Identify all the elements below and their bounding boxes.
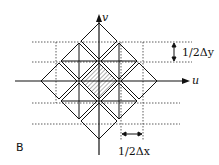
dx-label: 1/2Δx (118, 146, 150, 157)
lattice-diagram (0, 0, 219, 165)
panel-label: B (16, 142, 24, 153)
dx-dimension-arrow (122, 132, 142, 136)
diagram: v u 1/2Δy 1/2Δx B (0, 0, 219, 165)
dy-label: 1/2Δy (182, 47, 214, 58)
dy-dimension-arrow (172, 43, 176, 61)
u-axis-arrow-icon (182, 78, 190, 84)
u-axis-label: u (192, 75, 199, 86)
v-axis-label: v (102, 12, 108, 23)
